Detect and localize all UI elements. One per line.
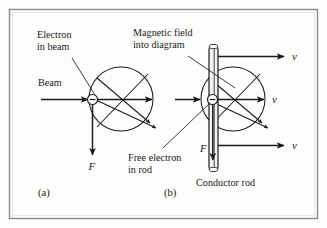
conductor-rod-top-cap bbox=[209, 44, 218, 48]
panel-b-velocity-label-top: v bbox=[292, 50, 297, 62]
panel-b-velocity-label-middle: v bbox=[272, 93, 277, 105]
panel-b-caption: (b) bbox=[164, 187, 177, 199]
panel-b-field-label-line1: Magnetic field bbox=[133, 27, 193, 38]
panel-a-chord-up-right bbox=[97, 74, 148, 127]
figure-container: Electron in beam Beam F (a) bbox=[0, 0, 327, 228]
physics-diagram-svg: Electron in beam Beam F (a) bbox=[0, 0, 327, 228]
panel-b-field-label-line2: into diagram bbox=[133, 39, 185, 50]
panel-a-chord-down-right bbox=[97, 78, 150, 123]
panel-a-caption: (a) bbox=[38, 187, 50, 199]
panel-b-group: Magnetic field into diagram Free electro… bbox=[128, 27, 297, 199]
conductor-rod-bottom-cap bbox=[209, 167, 218, 171]
panel-a-electron-label-line2: in beam bbox=[37, 41, 70, 52]
panel-b-free-electron-label-line1: Free electron bbox=[128, 152, 181, 163]
panel-a-force-label: F bbox=[88, 160, 96, 172]
panel-a-deflected-path bbox=[96, 100, 156, 128]
panel-b-free-electron-label-line2: in rod bbox=[128, 164, 152, 175]
panel-a-electron-label-line1: Electron bbox=[37, 29, 72, 40]
panel-b-force-label: F bbox=[199, 142, 207, 154]
conductor-rod-label: Conductor rod bbox=[196, 177, 255, 188]
panel-a-beam-label: Beam bbox=[38, 77, 62, 88]
panel-a-electron-leader-line bbox=[72, 58, 95, 95]
panel-b-velocity-label-bottom: v bbox=[292, 139, 297, 151]
